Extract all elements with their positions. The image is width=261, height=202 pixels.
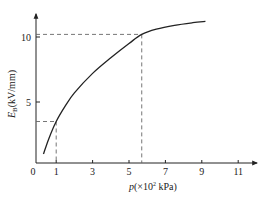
x-tick-label: 11 — [233, 166, 243, 177]
data-curve — [43, 21, 205, 154]
x-tick-label: 1 — [54, 166, 59, 177]
dashed-guides — [36, 34, 142, 163]
x-tick-label: 7 — [163, 166, 168, 177]
y-tick-label: 5 — [26, 97, 31, 108]
x-tick-label: 9 — [199, 166, 204, 177]
y-ticks: 510 — [21, 32, 40, 108]
chart-svg: 01357911 510 EB(kV/mm) p(×102 kPa) — [0, 0, 261, 202]
chart-container: 01357911 510 EB(kV/mm) p(×102 kPa) — [0, 0, 261, 202]
y-axis-label: EB(kV/mm) — [6, 70, 19, 119]
x-axis-label: p(×102 kPa) — [128, 181, 177, 193]
x-tick-label: 5 — [127, 166, 132, 177]
x-tick-label: 0 — [31, 166, 36, 177]
x-tick-label: 3 — [90, 166, 95, 177]
y-tick-label: 10 — [21, 32, 31, 43]
